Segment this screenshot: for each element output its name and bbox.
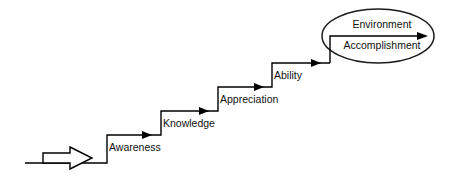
diagram-canvas: Awareness Knowledge Appreciation Ability… <box>0 0 462 181</box>
step-label-awareness: Awareness <box>109 141 161 153</box>
staircase-diagram: Awareness Knowledge Appreciation Ability… <box>0 0 462 181</box>
step-label-appreciation: Appreciation <box>220 93 279 105</box>
step-arrowhead-2 <box>199 107 209 115</box>
step-arrowhead-3 <box>254 83 264 91</box>
outcome-label-accomplishment: Accomplishment <box>343 39 420 51</box>
outcome-label-environment: Environment <box>353 18 412 30</box>
step-label-knowledge: Knowledge <box>163 117 215 129</box>
entry-block-arrow-icon <box>43 147 92 169</box>
step-arrowhead-1 <box>142 131 152 139</box>
step-arrowhead-4 <box>311 59 321 67</box>
step-label-ability: Ability <box>274 69 303 81</box>
